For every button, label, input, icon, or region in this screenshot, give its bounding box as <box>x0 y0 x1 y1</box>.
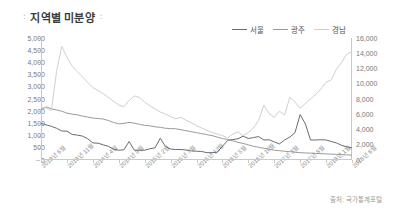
legend-label: 서울 <box>250 24 264 35</box>
chart-title-group: ∶ 지역별 미분양 ∶ <box>23 9 102 25</box>
legend-item-2[interactable]: 광주 <box>273 24 305 35</box>
y-tick-mark-left <box>36 148 40 149</box>
x-tick-mark <box>119 160 120 163</box>
x-tick-mark <box>300 160 301 163</box>
x-tick-mark <box>248 160 249 163</box>
y-tick-mark-left <box>36 99 40 100</box>
legend-label: 광주 <box>291 24 305 35</box>
chart-lines <box>41 38 352 160</box>
y-tick-mark-left <box>36 136 40 137</box>
y-tick-mark-left <box>36 50 40 51</box>
x-tick-mark <box>274 160 275 163</box>
legend-item-1[interactable]: 서울 <box>232 24 264 35</box>
x-tick-mark <box>171 160 172 163</box>
line-series-서울 <box>41 115 352 153</box>
chart-legend: 서울광주경남 <box>232 24 346 35</box>
x-tick-mark <box>222 160 223 163</box>
legend-item-3[interactable]: 경남 <box>314 24 346 35</box>
y-tick-right: 12,000 <box>356 65 377 72</box>
title-mark-left: ∶ <box>23 13 25 22</box>
plot-area <box>41 38 352 160</box>
source-note: 출처: 국가통계포털 <box>330 194 382 204</box>
x-tick-mark <box>352 160 353 163</box>
x-tick-mark <box>67 160 68 163</box>
y-tick-right: 14,000 <box>356 50 377 57</box>
x-tick-mark <box>93 160 94 163</box>
x-tick-mark <box>145 160 146 163</box>
chart-page: ∶ 지역별 미분양 ∶ 서울광주경남 05001,0001,5002,0002,… <box>0 0 398 210</box>
page-title: 지역별 미분양 <box>30 9 94 25</box>
y-tick-mark-left <box>36 111 40 112</box>
title-mark-right: ∶ <box>100 13 102 22</box>
y-tick-right: 4,000 <box>356 126 374 133</box>
legend-swatch-icon <box>314 29 329 30</box>
y-tick-mark-left <box>36 38 40 39</box>
y-tick-right: 16,000 <box>356 35 377 42</box>
y-tick-mark-left <box>36 123 40 124</box>
y-tick-right: 6,000 <box>356 111 374 118</box>
legend-swatch-icon <box>232 29 247 30</box>
y-tick-mark-left <box>36 87 40 88</box>
y-tick-mark-left <box>36 75 40 76</box>
y-tick-mark-left <box>36 62 40 63</box>
y-tick-right: 10,000 <box>356 80 377 87</box>
x-tick-mark <box>197 160 198 163</box>
x-tick-mark <box>41 160 42 163</box>
legend-swatch-icon <box>273 29 288 30</box>
legend-label: 경남 <box>332 24 346 35</box>
y-tick-right: 8,000 <box>356 96 374 103</box>
line-series-광주 <box>41 107 352 155</box>
x-tick-mark <box>326 160 327 163</box>
